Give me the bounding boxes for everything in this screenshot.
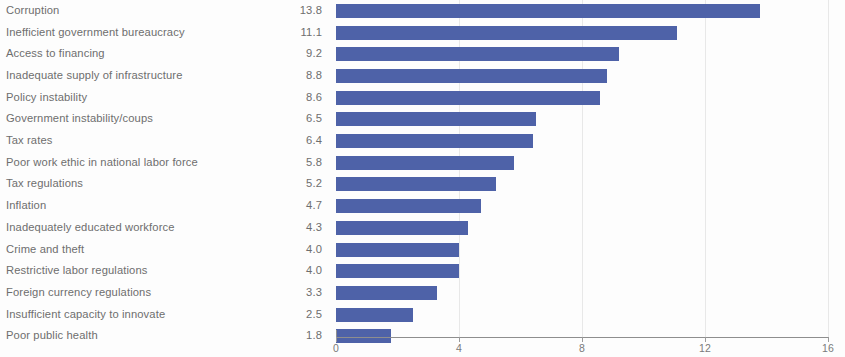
x-tick-label-0: 0	[333, 343, 339, 354]
value-label: 8.6	[250, 92, 322, 103]
category-label: Foreign currency regulations	[6, 287, 151, 298]
value-label: 1.8	[250, 331, 322, 342]
chart-row: Insufficient capacity to innovate2.5	[0, 304, 845, 326]
value-bar	[336, 112, 536, 126]
category-label: Restrictive labor regulations	[6, 266, 148, 277]
category-label: Inflation	[6, 201, 46, 212]
category-label: Poor public health	[6, 331, 98, 342]
chart-row: Corruption13.8	[0, 0, 845, 22]
value-label: 5.8	[250, 157, 322, 168]
category-label: Inadequately educated workforce	[6, 222, 175, 233]
value-bar	[336, 221, 468, 235]
value-bar	[336, 91, 600, 105]
value-bar	[336, 69, 607, 83]
value-bar	[336, 243, 459, 257]
value-bar	[336, 308, 413, 322]
category-label: Corruption	[6, 5, 59, 16]
value-label: 11.1	[250, 27, 322, 38]
chart-rows: Corruption13.8Inefficient government bur…	[0, 0, 845, 337]
value-label: 4.0	[250, 266, 322, 277]
x-tick-label-12: 12	[699, 343, 711, 354]
chart-row: Inadequate supply of infrastructure8.8	[0, 65, 845, 87]
chart-row: Access to financing9.2	[0, 43, 845, 65]
category-label: Tax rates	[6, 135, 52, 146]
chart-row: Tax regulations5.2	[0, 174, 845, 196]
category-label: Poor work ethic in national labor force	[6, 157, 198, 168]
chart-row: Inadequately educated workforce4.3	[0, 217, 845, 239]
category-label: Policy instability	[6, 92, 87, 103]
x-tick-label-4: 4	[456, 343, 462, 354]
chart-row: Inefficient government bureaucracy11.1	[0, 22, 845, 44]
value-label: 8.8	[250, 70, 322, 81]
value-label: 4.7	[250, 201, 322, 212]
chart-row: Policy instability8.6	[0, 87, 845, 109]
value-label: 5.2	[250, 179, 322, 190]
category-label: Insufficient capacity to innovate	[6, 309, 165, 320]
value-label: 9.2	[250, 49, 322, 60]
value-label: 6.5	[250, 114, 322, 125]
value-bar	[336, 134, 533, 148]
value-label: 13.8	[250, 5, 322, 16]
value-bar	[336, 26, 677, 40]
value-bar	[336, 199, 481, 213]
chart-row: Foreign currency regulations3.3	[0, 282, 845, 304]
x-tick-label-8: 8	[579, 343, 585, 354]
value-label: 4.3	[250, 222, 322, 233]
chart-row: Tax rates6.4	[0, 130, 845, 152]
category-label: Inadequate supply of infrastructure	[6, 70, 182, 81]
value-label: 3.3	[250, 287, 322, 298]
value-bar	[336, 47, 619, 61]
chart-row: Crime and theft4.0	[0, 239, 845, 261]
horizontal-bar-chart: Corruption13.8Inefficient government bur…	[0, 0, 845, 357]
chart-row: Inflation4.7	[0, 195, 845, 217]
chart-row: Government instability/coups6.5	[0, 109, 845, 131]
value-bar	[336, 177, 496, 191]
chart-row: Poor work ethic in national labor force5…	[0, 152, 845, 174]
x-tick-label-16: 16	[822, 343, 834, 354]
value-bar	[336, 286, 437, 300]
category-label: Inefficient government bureaucracy	[6, 27, 185, 38]
category-label: Tax regulations	[6, 179, 83, 190]
value-bar	[336, 156, 514, 170]
value-label: 6.4	[250, 135, 322, 146]
value-bar	[336, 4, 760, 18]
value-bar	[336, 264, 459, 278]
value-label: 4.0	[250, 244, 322, 255]
value-label: 2.5	[250, 309, 322, 320]
category-label: Access to financing	[6, 49, 105, 60]
category-label: Government instability/coups	[6, 114, 153, 125]
category-label: Crime and theft	[6, 244, 84, 255]
chart-row: Restrictive labor regulations4.0	[0, 260, 845, 282]
